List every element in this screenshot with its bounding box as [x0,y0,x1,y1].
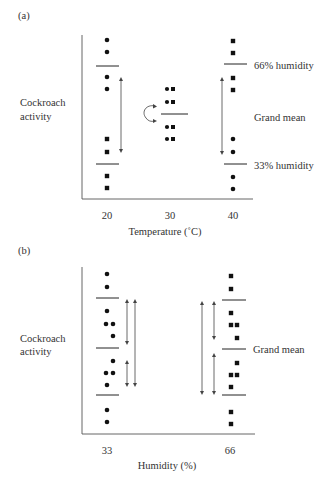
circle-marker [111,371,116,376]
square-marker [229,287,233,291]
square-marker [235,336,239,340]
square-marker [229,373,233,377]
circle-marker [231,150,236,155]
square-marker [229,274,233,278]
circle-marker [231,137,236,142]
square-marker [231,76,235,80]
circle-marker [111,322,116,327]
square-marker [229,422,233,426]
square-marker [235,373,239,377]
arrowhead-icon [153,104,157,109]
square-marker [235,361,239,365]
circle-marker [105,50,110,55]
square-marker [171,87,175,91]
panel-a-tick-30: 30 [165,210,176,221]
label-33-humidity: 33% humidity [254,160,315,171]
square-marker [229,385,233,389]
panel-b-column-66 [202,274,246,426]
circle-marker [104,322,109,327]
circle-marker [105,383,110,388]
circle-marker [105,38,110,43]
square-marker [229,323,233,327]
square-marker [231,39,235,43]
panel-b-y-label-2: activity [20,346,52,357]
square-marker [105,186,109,190]
panel-b-tick-33: 33 [102,445,113,456]
square-marker [105,174,109,178]
arrowhead-icon [153,119,157,123]
label-66-humidity: 66% humidity [254,60,315,71]
panel-a-column-40 [222,39,247,192]
circle-marker [165,125,169,129]
square-marker [229,311,233,315]
panel-a-x-label: Temperature (˚C) [128,226,202,238]
circle-marker [105,420,110,425]
circle-marker [104,371,109,376]
circle-marker [105,87,110,92]
panel-a-y-label-1: Cockroach [20,97,66,108]
label-grand-mean-a: Grand mean [254,112,306,123]
panel-a-label: (a) [18,10,30,22]
square-marker [235,323,239,327]
square-marker [105,137,109,141]
circle-marker [105,75,110,80]
panel-b-y-label-1: Cockroach [20,333,66,344]
circle-marker [105,285,110,290]
panel-a-column-30 [144,87,188,141]
panel-b-tick-66: 66 [225,445,236,456]
square-marker [231,88,235,92]
panel-a-tick-40: 40 [228,210,239,221]
circle-marker [165,100,169,104]
circle-marker [111,359,116,364]
square-marker [105,150,109,154]
panel-b-column-33 [96,272,135,425]
circle-marker [111,334,116,339]
circle-marker [105,272,110,277]
panel-b-label: (b) [18,245,31,257]
panel-b: (b) Cockroach activity 33 66 Humidity (%… [18,245,305,472]
panel-b-x-label: Humidity (%) [138,460,197,472]
figure: (a) Cockroach activity 20 30 40 Temperat… [0,0,332,479]
square-marker [171,125,175,129]
panel-a: (a) Cockroach activity 20 30 40 Temperat… [18,10,315,238]
circle-marker [105,408,110,413]
square-marker [171,100,175,104]
circle-marker [231,175,236,180]
panel-a-tick-20: 20 [102,210,113,221]
circle-marker [165,87,169,91]
square-marker [229,410,233,414]
circle-marker [165,137,169,141]
square-marker [231,51,235,55]
circle-marker [231,187,236,192]
square-marker [171,137,175,141]
circle-marker [105,309,110,314]
panel-a-y-label-2: activity [20,111,52,122]
panel-a-column-20 [96,38,121,191]
label-grand-mean-b: Grand mean [253,344,305,355]
